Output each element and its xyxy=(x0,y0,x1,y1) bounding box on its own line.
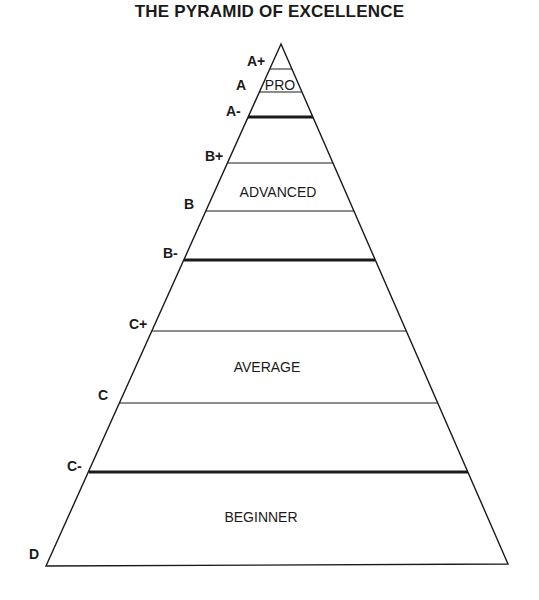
grade-label-a: A xyxy=(236,77,246,93)
pyramid-diagram: A+ A A- B+ B B- C+ C C- D PRO ADVANCED A… xyxy=(0,0,539,600)
grade-label-a-minus: A- xyxy=(226,103,241,119)
tier-label-pro: PRO xyxy=(265,77,295,93)
grade-label-d: D xyxy=(29,546,39,562)
tier-label-beginner: BEGINNER xyxy=(224,509,297,525)
tier-label-advanced: ADVANCED xyxy=(240,184,317,200)
grade-label-c: C xyxy=(98,387,108,403)
grade-label-a-plus: A+ xyxy=(247,53,265,69)
grade-label-b-plus: B+ xyxy=(205,148,223,164)
tier-label-average: AVERAGE xyxy=(234,359,301,375)
pyramid-outline xyxy=(46,44,508,566)
grade-label-c-plus: C+ xyxy=(129,316,147,332)
grade-label-c-minus: C- xyxy=(67,458,82,474)
grade-label-b-minus: B- xyxy=(163,245,178,261)
grade-label-b: B xyxy=(184,196,194,212)
